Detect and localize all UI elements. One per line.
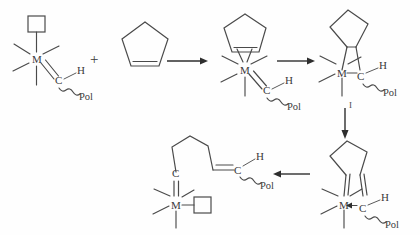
mcb-polymer-wavy-bond: [363, 84, 384, 91]
structure-bis-carbene: M C H Pol: [321, 141, 399, 230]
pi-hydrogen-label: H: [285, 74, 293, 86]
bis-carbene-right-bond-line2: [364, 174, 367, 195]
bc-hydrogen-label: H: [381, 191, 389, 203]
structure-metallacyclobutane: M C H Pol I: [319, 10, 397, 110]
ext-ligand-bond-upper-left: [154, 189, 170, 196]
mcb-ligand-bond-lower-left: [319, 74, 335, 82]
bc-carbene-carbon-label: C: [359, 202, 366, 214]
pi-carbon-hydrogen-bond: [272, 83, 284, 89]
ext-ligand-bond-lower-left: [153, 206, 169, 214]
vacant-site-square-bottom-left: [194, 197, 211, 213]
ligand-bond-upper-right: [43, 46, 59, 54]
carbon-hydrogen-bond: [64, 73, 76, 79]
bc-ligand-bond-upper-right: [350, 189, 362, 196]
arrow-3-head: [342, 130, 349, 139]
plus-sign: +: [90, 51, 98, 67]
reaction-scheme-canvas: M C H Pol +: [0, 0, 420, 235]
ext-metal-label: M: [171, 199, 181, 211]
arrow-1-head: [200, 58, 208, 65]
structure-pi-complex: M C H Pol: [221, 14, 301, 112]
polymer-wavy-bond: [59, 88, 80, 95]
vacant-site-square-top-left: [28, 16, 45, 32]
cyclopentene-ring: [122, 22, 168, 66]
bc-polymer-label: Pol: [385, 219, 399, 230]
ext-polymer-label: Pol: [260, 180, 274, 191]
ligand-bond-lower-left: [13, 63, 29, 71]
mcb-polymer-label: Pol: [383, 87, 397, 98]
pi-carbene-carbon-label: C: [263, 84, 270, 96]
pi-polymer-label: Pol: [287, 101, 301, 112]
metallacyclobutane-fused-ring: [330, 10, 368, 47]
pi-ligand-bond-upper-left: [222, 56, 238, 64]
pi-coordination-bond-left: [237, 49, 243, 62]
arrow-4-product-formation: [273, 171, 310, 178]
pi-complex-ring: [224, 14, 266, 52]
arrow-1-coordination: [167, 58, 208, 65]
arrow-3-ring-opening: [342, 108, 349, 139]
mcb-carbon-hydrogen-bond: [366, 68, 378, 73]
pi-coordination-bond-right: [247, 49, 252, 62]
bc-ligand-bond-lower-left: [321, 206, 337, 214]
reaction-scheme-figure: M C H Pol +: [0, 0, 420, 235]
bis-carbene-right-bond-line1: [360, 175, 363, 196]
mcb-hydrogen-label: H: [379, 59, 387, 71]
structure-cyclopentene: [122, 22, 168, 66]
ext-ligand-bond-upper-right: [182, 190, 194, 197]
mcb-metal-label: M: [337, 67, 347, 79]
metal-carbene-double-bond-line1: [41, 63, 54, 79]
intermediate-number-label: I: [349, 100, 352, 110]
carbene-carbon-label: C: [55, 74, 62, 86]
structure-extended-alkylidene: C C M H Pol: [153, 136, 274, 228]
bis-carbene-left-bond-line1: [344, 175, 346, 196]
ext-alkene-carbon-label: C: [234, 164, 241, 176]
arrow-4-head: [273, 171, 281, 178]
polymer-label: Pol: [79, 91, 93, 102]
hydrogen-label: H: [77, 64, 85, 76]
pi-ligand-bond-upper-right: [251, 56, 267, 64]
arrow-2-head: [307, 58, 315, 65]
ext-chain-carbon-label: C: [172, 167, 179, 179]
arrow-2-cycloaddition: [277, 58, 315, 65]
bc-ligand-bond-upper-left: [322, 189, 338, 196]
pi-metal-carbene-bond-line1: [249, 74, 262, 89]
ext-carbon-hydrogen-bond: [243, 159, 255, 166]
ext-polymer-wavy-bond: [240, 177, 261, 184]
pi-polymer-wavy-bond: [267, 98, 288, 105]
mcb-carbene-carbon-label: C: [357, 70, 364, 82]
bc-carbon-hydrogen-bond: [368, 200, 380, 205]
bis-carbene-ring-skeleton: [330, 141, 367, 175]
pi-ligand-bond-lower-left: [221, 74, 237, 82]
ext-hydrogen-label: H: [256, 150, 264, 162]
ligand-bond-upper-left: [14, 44, 30, 54]
structure-alkylidene-complex: M C H Pol: [13, 16, 93, 102]
bis-carbene-left-bond-line2: [348, 174, 350, 195]
bc-polymer-wavy-bond: [365, 216, 386, 223]
mcb-ligand-bond-upper-left: [320, 56, 336, 64]
